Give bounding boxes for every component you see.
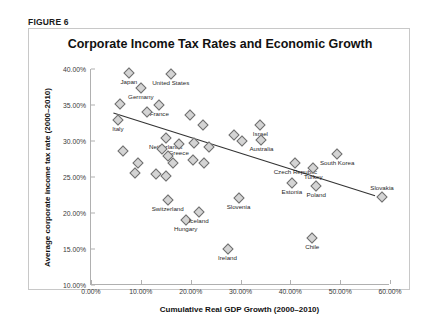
- data-point-label: Switzerland: [152, 205, 184, 212]
- chart-title: Corporate Income Tax Rates and Economic …: [29, 37, 411, 51]
- y-axis-tick-mark: [91, 69, 95, 70]
- x-axis-tick-label: 20.00%: [179, 284, 202, 295]
- x-axis-tick-mark: [191, 280, 192, 284]
- x-axis-tick-mark: [290, 280, 291, 284]
- y-axis-tick-label: 25.00%: [63, 174, 91, 181]
- data-point-label: Japan: [120, 78, 137, 85]
- chart-frame: Corporate Income Tax Rates and Economic …: [28, 28, 410, 290]
- x-axis-tick-label: 10.00%: [129, 284, 152, 295]
- x-axis-tick-mark: [390, 280, 391, 284]
- y-axis-tick-mark: [91, 105, 95, 106]
- y-axis-tick-mark: [91, 177, 95, 178]
- data-point-label: Hungary: [174, 225, 197, 232]
- data-point-label: Turkey: [304, 173, 323, 180]
- y-axis-tick-label: 40.00%: [63, 66, 91, 73]
- x-axis-label: Cumulative Real GDP Growth (2000–2010): [90, 305, 389, 314]
- x-axis-tick-mark: [91, 280, 92, 284]
- x-axis-tick-label: 40.00%: [279, 284, 302, 295]
- x-axis-tick-mark: [340, 280, 341, 284]
- y-axis-tick-mark: [91, 249, 95, 250]
- data-point-label: Italy: [112, 125, 123, 132]
- x-axis-tick-label: 0.00%: [81, 284, 100, 295]
- y-axis-tick-label: 30.00%: [63, 138, 91, 145]
- y-axis-tick-label: 20.00%: [63, 210, 91, 217]
- figure-tag: FIGURE 6: [28, 17, 69, 27]
- x-axis-tick-mark: [241, 280, 242, 284]
- x-axis-tick-label: 50.00%: [329, 284, 352, 295]
- plot-area: 10.00%15.00%20.00%25.00%30.00%35.00%40.0…: [90, 69, 389, 285]
- y-axis-tick-mark: [91, 141, 95, 142]
- data-point-label: United States: [152, 79, 189, 86]
- data-point-label: Australia: [249, 145, 273, 152]
- y-axis-tick-label: 15.00%: [63, 246, 91, 253]
- data-point-label: Slovenia: [227, 203, 251, 210]
- data-point-label: Iceland: [189, 217, 209, 224]
- data-point-label: Poland: [307, 191, 326, 198]
- y-axis-label: Average corporate income tax rate (2000–…: [40, 69, 54, 285]
- data-point-label: Estonia: [282, 188, 303, 195]
- x-axis-tick-label: 60.00%: [378, 284, 401, 295]
- x-axis-tick-label: 30.00%: [229, 284, 252, 295]
- figure-container: FIGURE 6 Corporate Income Tax Rates and …: [0, 0, 438, 319]
- data-point-label: Slovakia: [370, 184, 393, 191]
- y-axis-tick-label: 35.00%: [63, 102, 91, 109]
- data-point-label: South Korea: [320, 159, 354, 166]
- y-axis-tick-mark: [91, 213, 95, 214]
- x-axis-tick-mark: [141, 280, 142, 284]
- y-axis-label-text: Average corporate income tax rate (2000–…: [43, 88, 52, 267]
- data-point-label: Chile: [305, 243, 319, 250]
- data-point-label: Ireland: [218, 254, 237, 261]
- data-point-label: Germany: [128, 93, 153, 100]
